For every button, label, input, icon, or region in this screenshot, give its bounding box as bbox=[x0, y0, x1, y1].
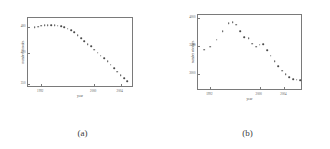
data-point bbox=[274, 60, 276, 62]
data-point bbox=[113, 68, 115, 70]
data-point bbox=[248, 37, 250, 39]
data-point bbox=[87, 43, 89, 45]
x-axis-tick-label: 2000 bbox=[90, 89, 96, 93]
y-axis-tick bbox=[28, 27, 30, 28]
data-point bbox=[239, 31, 241, 33]
data-point bbox=[244, 36, 246, 38]
data-point bbox=[123, 78, 125, 80]
data-point bbox=[103, 57, 105, 59]
data-point bbox=[107, 61, 109, 63]
data-point bbox=[74, 32, 76, 34]
data-point bbox=[259, 44, 261, 46]
x-axis-tick bbox=[41, 84, 42, 86]
figure-panels-row: year number of nodes (a) 199220002004350… bbox=[0, 0, 330, 149]
y-axis-tick bbox=[198, 18, 200, 19]
data-point bbox=[270, 55, 272, 57]
data-point bbox=[235, 24, 237, 26]
x-axis-tick-label: 2004 bbox=[280, 92, 286, 96]
data-point bbox=[203, 49, 205, 51]
data-point bbox=[54, 25, 56, 27]
data-point bbox=[232, 22, 234, 24]
data-point bbox=[228, 23, 230, 25]
data-point bbox=[40, 25, 42, 27]
data-point bbox=[277, 65, 279, 67]
data-point bbox=[93, 49, 95, 51]
x-axis-tick bbox=[121, 84, 122, 86]
panel-caption-a: (a) bbox=[0, 128, 165, 138]
data-point bbox=[263, 43, 265, 45]
data-point bbox=[44, 25, 46, 27]
x-axis-title-b: year bbox=[247, 97, 253, 101]
y-axis-tick-label: 3500 bbox=[189, 43, 195, 47]
data-point bbox=[222, 31, 224, 33]
data-point bbox=[299, 79, 301, 81]
panel-caption-b: (b) bbox=[165, 128, 330, 138]
data-point bbox=[281, 70, 283, 72]
x-axis-tick bbox=[260, 87, 261, 89]
data-point bbox=[120, 75, 122, 77]
scatter-plot-a bbox=[27, 17, 133, 87]
y-axis-tick bbox=[28, 53, 30, 54]
data-point bbox=[100, 55, 102, 57]
figure-panel-a: year number of nodes (a) 199220002004350… bbox=[0, 0, 165, 149]
data-point bbox=[127, 80, 129, 82]
y-axis-tick bbox=[198, 74, 200, 75]
x-axis-tick-label: 1992 bbox=[37, 89, 43, 93]
x-axis-tick-label: 2004 bbox=[117, 89, 123, 93]
data-point bbox=[37, 26, 39, 28]
x-axis-tick bbox=[284, 87, 285, 89]
data-point bbox=[289, 76, 291, 78]
x-axis-tick bbox=[210, 87, 211, 89]
data-point bbox=[50, 24, 52, 26]
data-point bbox=[97, 52, 99, 54]
y-axis-tick-label: 350 bbox=[21, 81, 26, 85]
data-point bbox=[84, 40, 86, 42]
data-point bbox=[34, 26, 36, 28]
data-point bbox=[47, 24, 49, 26]
data-point bbox=[296, 79, 298, 81]
figure-panel-b: year number of edges (b) 199220002004300… bbox=[165, 0, 330, 149]
data-point bbox=[110, 64, 112, 66]
data-point bbox=[216, 39, 218, 41]
data-point bbox=[80, 37, 82, 39]
y-axis-tick bbox=[28, 84, 30, 85]
x-axis-title-a: year bbox=[77, 94, 83, 98]
data-point bbox=[64, 26, 66, 28]
y-axis-tick-label: 4000 bbox=[189, 15, 195, 19]
data-point bbox=[117, 71, 119, 73]
data-point bbox=[210, 46, 212, 48]
x-axis-tick-label: 1992 bbox=[206, 92, 212, 96]
x-axis-tick-label: 2000 bbox=[256, 92, 262, 96]
data-point bbox=[266, 50, 268, 52]
data-point bbox=[57, 25, 59, 27]
data-point bbox=[252, 43, 254, 45]
y-axis-tick-label: 480 bbox=[21, 24, 26, 28]
y-axis-tick bbox=[198, 46, 200, 47]
data-point bbox=[285, 73, 287, 75]
data-point bbox=[292, 78, 294, 80]
scatter-plot-b bbox=[197, 14, 302, 90]
data-point bbox=[90, 46, 92, 48]
data-point bbox=[255, 46, 257, 48]
data-point bbox=[67, 28, 69, 30]
x-axis-tick bbox=[94, 84, 95, 86]
data-point bbox=[60, 26, 62, 28]
y-axis-tick-label: 420 bbox=[21, 50, 26, 54]
data-point bbox=[77, 34, 79, 36]
data-point bbox=[70, 29, 72, 31]
y-axis-tick-label: 3000 bbox=[189, 71, 195, 75]
